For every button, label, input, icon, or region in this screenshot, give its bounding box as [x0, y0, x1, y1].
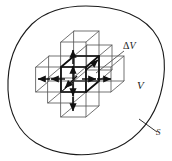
volume-label: V [137, 80, 144, 91]
neighbor-cell-back [74, 45, 112, 81]
figure-canvas: ΔV V S [0, 0, 172, 161]
delta-volume-label: ΔV [123, 41, 136, 51]
surface-label: S [156, 128, 161, 137]
vector-diagram [0, 0, 172, 161]
volume-symbol: V [129, 40, 135, 51]
